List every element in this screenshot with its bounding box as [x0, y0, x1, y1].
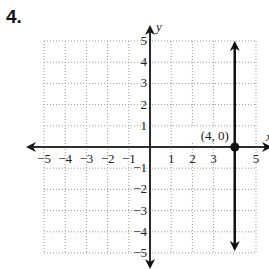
x-tick-label: −4	[58, 151, 72, 166]
y-tick-label: −1	[133, 160, 147, 175]
point-label: (4, 0)	[201, 128, 229, 143]
y-tick-label: 1	[141, 118, 148, 133]
x-tick-label: 5	[253, 151, 260, 166]
points: (4, 0)	[187, 128, 240, 152]
x-tick-label: −3	[79, 151, 93, 166]
x-axis-label: x	[265, 129, 269, 144]
y-tick-label: 2	[141, 97, 148, 112]
y-tick-label: −3	[133, 203, 147, 218]
x-tick-label: 3	[210, 151, 217, 166]
x-tick-label: 2	[189, 151, 196, 166]
x-tick-label: 1	[168, 151, 175, 166]
y-tick-label: −4	[133, 224, 147, 239]
y-tick-label: 4	[141, 54, 148, 69]
y-tick-label: −5	[133, 245, 147, 260]
y-axis-label: y	[154, 19, 162, 34]
x-tick-label: −2	[101, 151, 115, 166]
y-tick-label: −2	[133, 181, 147, 196]
y-tick-label: 5	[141, 33, 148, 48]
y-tick-label: 3	[141, 75, 148, 90]
point-marker	[230, 143, 239, 152]
coordinate-plane: xy −5−4−3−2−11235−5−4−3−2−112345 (4, 0)	[0, 0, 269, 269]
x-tick-label: −5	[37, 151, 51, 166]
